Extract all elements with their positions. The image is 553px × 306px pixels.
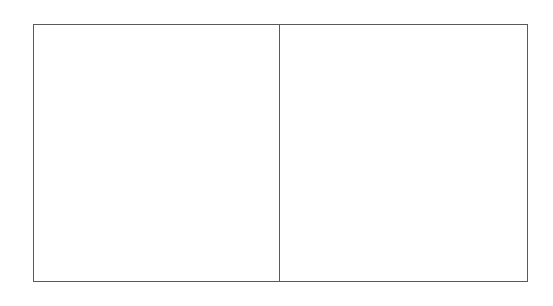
left-panel: [34, 25, 280, 281]
right-panel: [280, 25, 527, 281]
canvas: [0, 0, 553, 306]
two-panel-frame: [33, 24, 528, 282]
